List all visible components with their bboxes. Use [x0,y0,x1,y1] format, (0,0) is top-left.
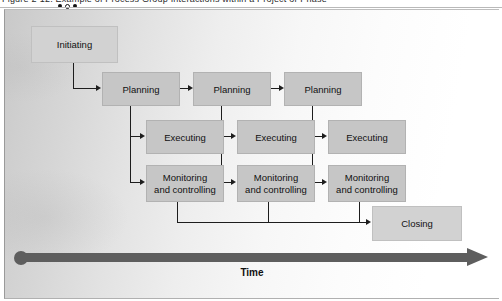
arrowhead-to-monitoring2 [231,179,236,185]
arrowhead-to-monitoring1 [140,179,145,185]
node-executing-2: Executing [237,120,315,154]
node-monitoring-3: Monitoring and controlling [328,165,406,202]
monitoring-2-text: Monitoring and controlling [245,172,307,195]
connector-planning1-to-executing1 [130,136,140,137]
connector-monitoring2-drop [268,200,269,222]
figure-caption-text: Figure 2-12. Example of Process Group In… [2,0,327,4]
monitoring-2-line1: Monitoring [254,172,298,183]
monitoring-3-line1: Monitoring [345,172,389,183]
arrowhead-initiating-to-planning1 [96,85,101,91]
arrowhead-to-executing3 [322,133,327,139]
process-group-diagram: Initiating Planning Planning Planning Ex… [4,9,499,299]
node-initiating: Initiating [31,26,118,63]
time-arrow-head [467,248,488,266]
monitoring-1-line1: Monitoring [163,172,207,183]
figure-caption-strip: Figure 2-12. Example of Process Group In… [0,0,502,9]
arrowhead-to-executing1 [140,133,145,139]
arrowhead-to-executing2 [231,133,236,139]
caption-divider-rule [0,7,502,8]
connector-monitoring1-drop [177,200,178,222]
connector-planning1-drop [130,104,131,182]
node-executing-3: Executing [328,120,406,154]
connector-closing-rail [177,222,366,223]
arrowhead-to-monitoring3 [322,179,327,185]
connector-planning1-to-monitoring1 [130,182,140,183]
node-monitoring-2: Monitoring and controlling [237,165,315,202]
monitoring-3-text: Monitoring and controlling [336,172,398,195]
node-closing: Closing [372,206,462,241]
monitoring-1-line2: and controlling [154,184,216,195]
node-planning-2: Planning [193,72,271,106]
time-axis-label: Time [5,267,499,278]
node-planning-1: Planning [102,72,180,106]
monitoring-1-text: Monitoring and controlling [154,172,216,195]
connector-initiating-down [73,61,74,88]
time-arrow-shaft [19,253,473,262]
node-planning-3: Planning [284,72,362,106]
connector-monitoring3-drop [359,200,360,222]
monitoring-3-line2: and controlling [336,184,398,195]
monitoring-2-line2: and controlling [245,184,307,195]
node-monitoring-1: Monitoring and controlling [146,165,224,202]
connector-initiating-right [73,88,96,89]
arrowhead-to-closing [366,219,371,225]
node-executing-1: Executing [146,120,224,154]
